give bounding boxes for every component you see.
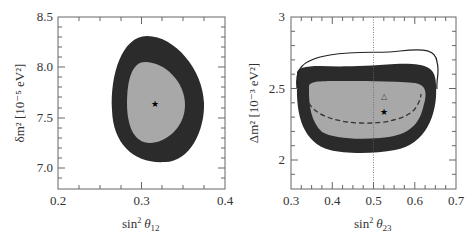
- right-xtick-0.7: 0.7: [448, 193, 465, 208]
- left-ytick-7.0: 7.0: [37, 160, 53, 175]
- right-alt-best-fit-triangle: △: [381, 92, 388, 101]
- right-ytick-2: 2: [279, 152, 286, 167]
- right-best-fit-star: ★: [380, 107, 388, 117]
- left-xtick-0.4: 0.4: [217, 193, 234, 208]
- left-xtick-0.3: 0.3: [133, 193, 149, 208]
- right-x-axis-label: sin2θ23: [354, 216, 392, 233]
- left-xtick-0.2: 0.2: [50, 193, 66, 208]
- right-y-axis-label: Δm² [10⁻³ eV²]: [246, 63, 261, 143]
- right-ytick-3: 3: [279, 9, 286, 24]
- right-xtick-0.3: 0.3: [283, 193, 299, 208]
- right-ytick-2.5: 2.5: [269, 81, 285, 96]
- left-x-axis-label: sin2θ12: [122, 216, 160, 233]
- left-best-fit-star: ★: [151, 99, 159, 109]
- right-inner-region: [309, 81, 426, 139]
- right-xtick-0.4: 0.4: [324, 193, 341, 208]
- left-ytick-7.5: 7.5: [37, 110, 53, 125]
- left-ytick-8.0: 8.0: [37, 59, 53, 74]
- right-panel: △ ★: [246, 9, 465, 233]
- chart-canvas: ★: [0, 0, 473, 242]
- left-y-axis-label: δm² [10⁻⁵ eV²]: [12, 64, 27, 143]
- left-ytick-8.5: 8.5: [37, 9, 53, 24]
- right-xtick-0.6: 0.6: [407, 193, 424, 208]
- right-xtick-0.5: 0.5: [365, 193, 381, 208]
- left-panel: ★: [12, 9, 234, 233]
